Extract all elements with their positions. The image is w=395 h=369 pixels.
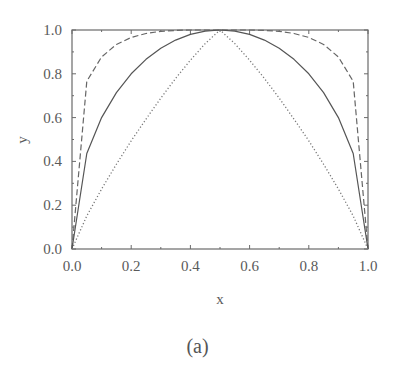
- series-solid: [72, 30, 368, 249]
- series-dashed: [72, 30, 368, 249]
- y-tick-label: 0.6: [43, 110, 62, 126]
- axis-ticks: 0.00.20.40.60.81.00.00.20.40.60.81.0: [43, 22, 377, 274]
- x-tick-label: 0.6: [240, 258, 259, 274]
- x-tick-label: 1.0: [359, 258, 378, 274]
- data-series: [72, 30, 368, 249]
- y-tick-label: 1.0: [43, 22, 62, 38]
- y-tick-label: 0.0: [43, 241, 62, 257]
- plot-border: [72, 30, 368, 249]
- x-tick-label: 0.2: [122, 258, 141, 274]
- y-tick-label: 0.2: [43, 197, 62, 213]
- plot-frame: [72, 30, 368, 249]
- line-chart: 0.00.20.40.60.81.00.00.20.40.60.81.0 x y: [0, 0, 395, 369]
- x-tick-label: 0.4: [181, 258, 200, 274]
- figure-caption: (a): [0, 335, 395, 358]
- y-axis-label: y: [14, 136, 30, 144]
- y-tick-label: 0.4: [43, 153, 62, 169]
- y-tick-label: 0.8: [43, 66, 62, 82]
- x-tick-label: 0.8: [299, 258, 318, 274]
- series-dotted: [72, 30, 368, 249]
- x-tick-label: 0.0: [63, 258, 82, 274]
- x-axis-label: x: [216, 291, 224, 307]
